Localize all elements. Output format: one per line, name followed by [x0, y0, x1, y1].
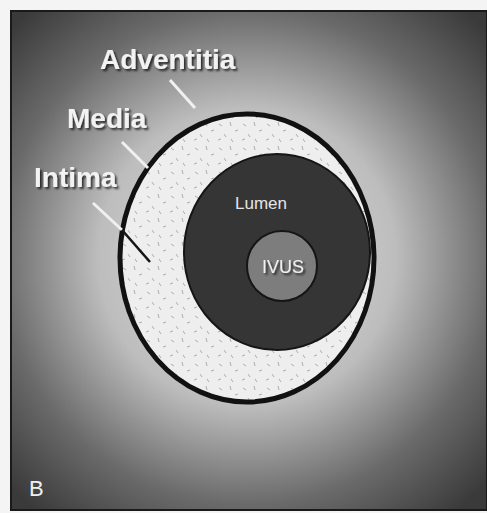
panel-letter: B	[29, 476, 44, 501]
intima-label: Intima	[34, 162, 117, 193]
adventitia-label: Adventitia	[100, 44, 236, 75]
vessel-cross-section-diagram: Adventitia Media Intima Lumen IVUS B	[0, 0, 487, 513]
media-label: Media	[67, 103, 147, 134]
ivus-label: IVUS	[262, 257, 304, 277]
lumen-label: Lumen	[235, 194, 287, 213]
